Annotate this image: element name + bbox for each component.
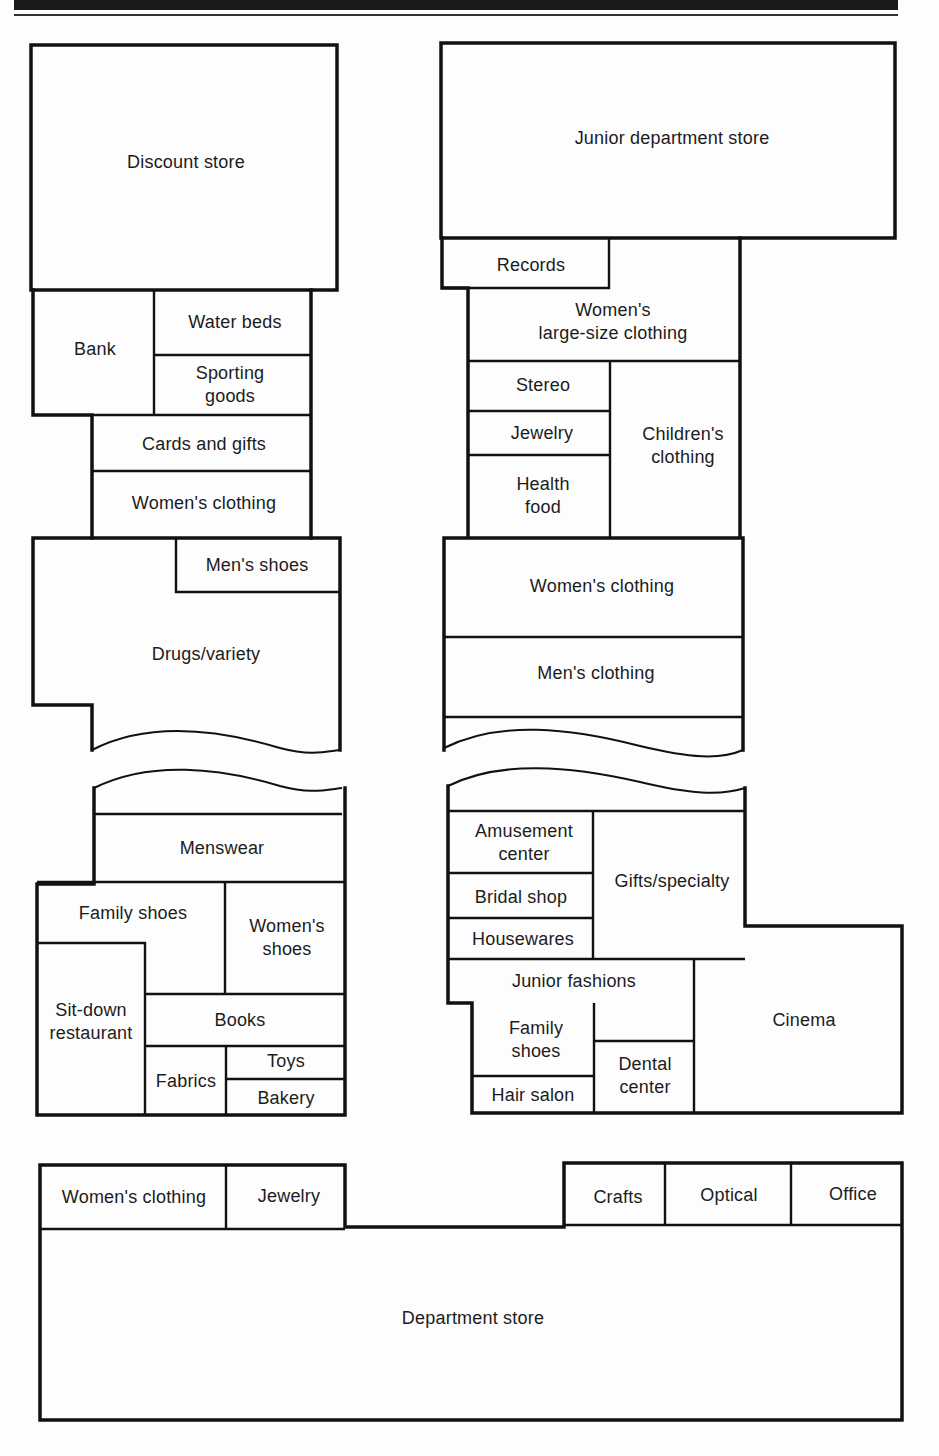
label-line: Sit-down xyxy=(49,999,132,1022)
store-bridal-shop[interactable]: Bridal shop xyxy=(475,886,567,909)
store-family-shoes-west[interactable]: Family shoes xyxy=(79,902,187,925)
east-north-block xyxy=(441,43,895,756)
store-womens-shoes[interactable]: Women's shoes xyxy=(249,915,325,961)
label-line: shoes xyxy=(509,1040,563,1063)
label-line: clothing xyxy=(642,446,723,469)
store-womens-clothing-east[interactable]: Women's clothing xyxy=(530,575,674,598)
store-family-shoes-east[interactable]: Family shoes xyxy=(509,1017,563,1063)
label-line: Health xyxy=(516,473,569,496)
store-optical[interactable]: Optical xyxy=(700,1184,757,1207)
store-department-store[interactable]: Department store xyxy=(402,1307,544,1330)
store-records[interactable]: Records xyxy=(497,254,565,277)
label-line: Women's xyxy=(539,299,688,322)
store-junior-department-store[interactable]: Junior department store xyxy=(575,127,770,150)
store-womens-clothing-west[interactable]: Women's clothing xyxy=(132,492,276,515)
store-junior-fashions[interactable]: Junior fashions xyxy=(512,970,636,993)
store-gifts-specialty[interactable]: Gifts/specialty xyxy=(614,870,729,893)
store-womens-clothing-south[interactable]: Women's clothing xyxy=(62,1186,206,1209)
store-books[interactable]: Books xyxy=(214,1009,265,1032)
store-cinema[interactable]: Cinema xyxy=(772,1009,835,1032)
store-housewares[interactable]: Housewares xyxy=(472,928,574,951)
label-line: large-size clothing xyxy=(539,322,688,345)
label-line: shoes xyxy=(249,938,325,961)
store-sit-down-restaurant[interactable]: Sit-down restaurant xyxy=(49,999,132,1045)
label-line: Children's xyxy=(642,423,723,446)
store-health-food[interactable]: Health food xyxy=(516,473,569,519)
store-fabrics[interactable]: Fabrics xyxy=(156,1070,216,1093)
store-womens-large-size-clothing[interactable]: Women's large-size clothing xyxy=(539,299,688,345)
store-water-beds[interactable]: Water beds xyxy=(188,311,281,334)
store-toys[interactable]: Toys xyxy=(267,1050,305,1073)
label-line: Family xyxy=(509,1017,563,1040)
store-jewelry-east[interactable]: Jewelry xyxy=(511,422,573,445)
label-line: Dental xyxy=(618,1053,671,1076)
store-mens-clothing[interactable]: Men's clothing xyxy=(537,662,654,685)
store-hair-salon[interactable]: Hair salon xyxy=(491,1084,574,1107)
store-discount-store[interactable]: Discount store xyxy=(127,151,245,174)
store-jewelry-south[interactable]: Jewelry xyxy=(258,1185,320,1208)
store-bank[interactable]: Bank xyxy=(74,338,116,361)
store-office[interactable]: Office xyxy=(829,1183,877,1206)
break-line-wave xyxy=(444,730,743,757)
label-line: Sporting xyxy=(196,362,265,385)
store-mens-shoes[interactable]: Men's shoes xyxy=(206,554,309,577)
store-sporting-goods[interactable]: Sporting goods xyxy=(196,362,265,408)
break-line-wave xyxy=(448,768,745,793)
store-bakery[interactable]: Bakery xyxy=(257,1087,314,1110)
label-line: restaurant xyxy=(49,1022,132,1045)
store-drugs-variety[interactable]: Drugs/variety xyxy=(152,643,261,666)
store-cards-and-gifts[interactable]: Cards and gifts xyxy=(142,433,266,456)
break-line-wave xyxy=(94,770,342,791)
store-dental-center[interactable]: Dental center xyxy=(618,1053,671,1099)
store-amusement-center[interactable]: Amusement center xyxy=(475,820,573,866)
label-line: Women's xyxy=(249,915,325,938)
store-crafts[interactable]: Crafts xyxy=(593,1186,642,1209)
label-line: food xyxy=(516,496,569,519)
store-childrens-clothing[interactable]: Children's clothing xyxy=(642,423,723,469)
store-stereo[interactable]: Stereo xyxy=(516,374,570,397)
label-line: Amusement xyxy=(475,820,573,843)
floor-plan-drawing xyxy=(0,0,939,1456)
label-line: center xyxy=(618,1076,671,1099)
store-menswear[interactable]: Menswear xyxy=(180,837,265,860)
label-line: goods xyxy=(196,385,265,408)
break-line-wave xyxy=(92,731,340,753)
label-line: center xyxy=(475,843,573,866)
